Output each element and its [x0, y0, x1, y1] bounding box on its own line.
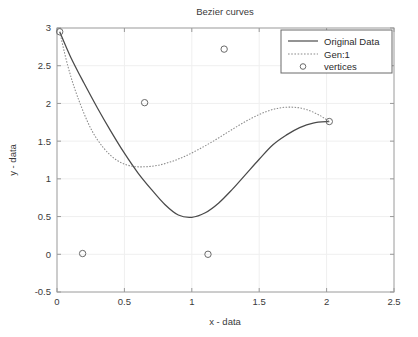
y-tick-label: 2 — [46, 98, 51, 109]
y-tick-label: -0.5 — [35, 286, 51, 297]
y-tick-label: 2.5 — [38, 60, 51, 71]
x-tick-label: 0.5 — [118, 296, 131, 307]
x-tick-label: 2 — [324, 296, 329, 307]
legend-label-vertices: vertices — [324, 61, 357, 72]
chart-title: Bezier curves — [196, 6, 254, 17]
x-tick-label: 2.5 — [387, 296, 400, 307]
y-tick-label: 3 — [46, 22, 51, 33]
y-tick-label: 1 — [46, 173, 51, 184]
legend[interactable]: Original Data Gen:1 vertices — [281, 30, 392, 73]
x-tick-label: 1 — [189, 296, 194, 307]
legend-label-gen1: Gen:1 — [324, 49, 350, 60]
x-axis-label: x - data — [209, 316, 241, 327]
legend-label-original-data: Original Data — [324, 36, 380, 47]
x-tick-label: 1.5 — [253, 296, 266, 307]
y-axis-tick-labels: -0.500.511.522.53 — [35, 22, 51, 297]
x-tick-label: 0 — [54, 296, 59, 307]
y-axis-label: y - data — [7, 143, 18, 175]
y-tick-label: 0.5 — [38, 211, 51, 222]
y-tick-label: 0 — [46, 249, 51, 260]
chart-figure: 00.511.522.5 -0.500.511.522.53 Bezier cu… — [0, 0, 418, 337]
y-tick-label: 1.5 — [38, 136, 51, 147]
bezier-curves-plot: 00.511.522.5 -0.500.511.522.53 Bezier cu… — [0, 0, 418, 337]
x-axis-tick-labels: 00.511.522.5 — [54, 296, 400, 307]
